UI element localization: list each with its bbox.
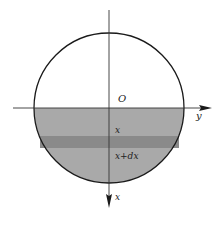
x-axis-arrow-icon [106, 194, 112, 208]
diagram-svg: O y x x+dx x [0, 0, 222, 227]
strip-bottom-label: x+dx [115, 151, 138, 161]
diagram-canvas: O y x x+dx x [0, 0, 222, 227]
strip-top-label: x [115, 125, 120, 135]
origin-label: O [118, 93, 126, 104]
y-axis-label: y [195, 110, 202, 121]
x-axis-label: x [115, 192, 120, 202]
differential-strip [40, 136, 179, 148]
